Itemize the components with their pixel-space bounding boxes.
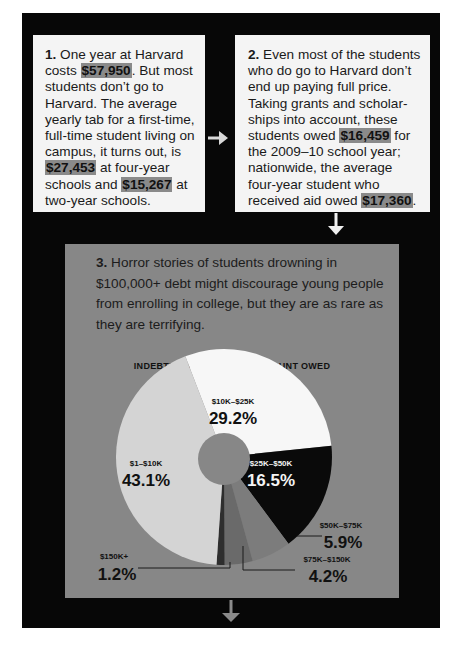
arrow-down-icon bbox=[328, 213, 344, 237]
slice-label: $25K–$50K bbox=[250, 459, 293, 468]
step-text: . bbox=[413, 193, 417, 208]
slice-label: 16.5% bbox=[247, 471, 295, 490]
step-number: 1. bbox=[45, 47, 56, 62]
slice-label: $75K–$150K bbox=[303, 555, 350, 564]
step-number: 2. bbox=[248, 47, 259, 62]
slice-label: 1.2% bbox=[98, 565, 137, 584]
pie-chart: $10K–$25K29.2%$1–$10K43.1%$25K–$50K16.5%… bbox=[65, 244, 399, 598]
slice-label: $1–$10K bbox=[130, 459, 163, 468]
step-3-card: 3. Horror stories of students drowning i… bbox=[65, 244, 399, 598]
slice-label: $150K+ bbox=[100, 552, 129, 561]
highlighted-amount: $16,459 bbox=[339, 128, 390, 143]
highlighted-amount: $27,453 bbox=[45, 160, 96, 175]
slice-label: 4.2% bbox=[309, 567, 348, 586]
slice-label: 43.1% bbox=[122, 471, 170, 490]
highlighted-amount: $15,267 bbox=[121, 177, 172, 192]
step-1-card: 1. One year at Harvard costs $57,950. Bu… bbox=[33, 35, 205, 212]
step-2-card: 2. Even most of the students who do go t… bbox=[235, 35, 430, 212]
arrow-down-icon bbox=[222, 600, 240, 624]
slice-label: $10K–$25K bbox=[212, 397, 255, 406]
highlighted-amount: $57,950 bbox=[81, 63, 132, 78]
slice-label: 29.2% bbox=[209, 409, 257, 428]
slice-label: $50K–$75K bbox=[320, 521, 363, 530]
donut-hole bbox=[198, 433, 250, 485]
highlighted-amount: $17,360 bbox=[361, 193, 412, 208]
arrow-right-icon bbox=[208, 131, 228, 145]
slice-label: 5.9% bbox=[324, 533, 363, 552]
